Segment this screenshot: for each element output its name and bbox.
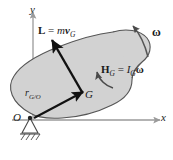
x-axis-label: x <box>161 112 166 123</box>
linear-momentum-subscript: G <box>70 30 75 39</box>
linear-momentum-symbol: L <box>38 24 45 36</box>
linear-momentum-label: L = mvG <box>38 25 75 39</box>
linear-momentum-mass: m <box>57 24 65 36</box>
center-of-mass-label: G <box>85 89 93 100</box>
rigid-body-momentum-figure: y x O G rG/O L = mvG HG = IGω ω <box>0 0 173 160</box>
angular-momentum-label: HG = IGω <box>101 64 144 78</box>
linear-momentum-equals: = <box>48 24 54 36</box>
position-vector-label: rG/O <box>25 88 41 101</box>
angular-momentum-equals: = <box>118 63 124 75</box>
angular-momentum-omega: ω <box>136 63 144 75</box>
origin-label: O <box>13 112 21 123</box>
figure-canvas <box>0 0 173 160</box>
angular-momentum-symbol-subscript: G <box>110 69 115 78</box>
y-axis-label: y <box>30 4 35 15</box>
angular-momentum-symbol: H <box>101 63 110 75</box>
pin-support-pivot <box>28 116 32 120</box>
ground-hatching <box>21 134 40 140</box>
angular-velocity-label: ω <box>152 26 161 38</box>
center-of-mass-point <box>80 90 83 93</box>
position-vector-subscript: G/O <box>29 93 41 100</box>
